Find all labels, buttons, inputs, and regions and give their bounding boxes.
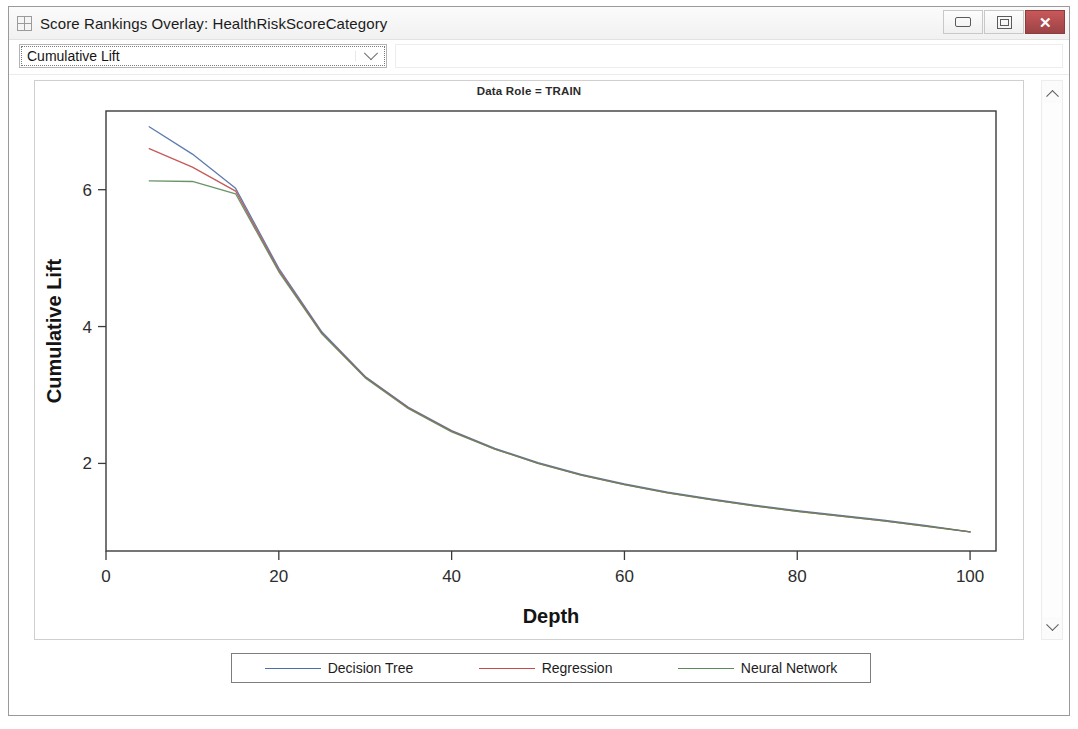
series-line-regression — [149, 149, 970, 532]
legend-line-swatch — [479, 668, 535, 669]
screenshot-root: Score Rankings Overlay: HealthRiskScoreC… — [0, 0, 1078, 729]
plot-frame — [106, 111, 996, 551]
legend-item[interactable]: Decision Tree — [265, 660, 414, 676]
chevron-up-icon — [1046, 89, 1059, 102]
y-axis-tick-label: 6 — [83, 181, 92, 200]
x-axis-tick-label: 80 — [788, 567, 807, 586]
chart-type-dropdown-button[interactable] — [355, 51, 386, 61]
x-axis-tick-label: 20 — [269, 567, 288, 586]
x-axis-label: Depth — [523, 605, 580, 627]
chart-legend: Decision TreeRegressionNeural Network — [231, 653, 871, 683]
toolbar-empty-area — [395, 44, 1063, 68]
chart-type-value: Cumulative Lift — [20, 48, 355, 64]
x-axis-tick-label: 40 — [442, 567, 461, 586]
restore-icon — [997, 16, 1012, 29]
window-title: Score Rankings Overlay: HealthRiskScoreC… — [40, 15, 387, 32]
scrollbar-track[interactable] — [1043, 103, 1061, 617]
series-line-neural-network — [149, 181, 970, 532]
chart-type-combobox[interactable]: Cumulative Lift — [19, 44, 387, 68]
y-axis-tick-label: 4 — [83, 318, 92, 337]
toolbar: Cumulative Lift — [9, 40, 1069, 75]
legend-item[interactable]: Neural Network — [678, 660, 837, 676]
x-axis-tick-label: 100 — [956, 567, 984, 586]
chevron-down-icon — [364, 46, 378, 60]
close-button[interactable]: ✕ — [1025, 10, 1065, 34]
application-window: Score Rankings Overlay: HealthRiskScoreC… — [8, 6, 1070, 716]
close-icon: ✕ — [1039, 15, 1052, 30]
legend-label: Decision Tree — [328, 660, 414, 676]
series-line-decision-tree — [149, 127, 970, 532]
plot-panel: Data Role = TRAIN 246020406080100DepthCu… — [34, 80, 1024, 640]
scroll-down-button[interactable] — [1042, 617, 1062, 637]
legend-label: Regression — [542, 660, 613, 676]
minimize-button[interactable] — [943, 10, 983, 34]
scroll-up-button[interactable] — [1042, 83, 1062, 103]
y-axis-tick-label: 2 — [83, 454, 92, 473]
restore-button[interactable] — [984, 10, 1024, 34]
legend-label: Neural Network — [741, 660, 837, 676]
legend-item[interactable]: Regression — [479, 660, 613, 676]
window-controls: ✕ — [942, 10, 1065, 34]
chevron-down-icon — [1046, 618, 1059, 631]
legend-line-swatch — [678, 668, 734, 669]
table-grid-icon — [17, 16, 32, 31]
cumulative-lift-chart: 246020406080100DepthCumulative Lift — [35, 81, 1023, 639]
minimize-icon — [955, 17, 971, 27]
vertical-scrollbar[interactable] — [1041, 80, 1063, 640]
content-area: Data Role = TRAIN 246020406080100DepthCu… — [9, 75, 1069, 715]
x-axis-tick-label: 0 — [101, 567, 110, 586]
y-axis-label: Cumulative Lift — [43, 258, 65, 403]
title-bar[interactable]: Score Rankings Overlay: HealthRiskScoreC… — [9, 7, 1069, 40]
legend-line-swatch — [265, 668, 321, 669]
x-axis-tick-label: 60 — [615, 567, 634, 586]
